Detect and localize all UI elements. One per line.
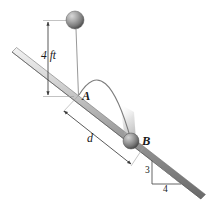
ball-b <box>123 133 139 149</box>
slope-rise-label: 3 <box>145 166 150 176</box>
figure-canvas <box>0 0 208 210</box>
point-b-label: B <box>142 135 150 148</box>
point-a-label: A <box>82 90 90 103</box>
ball-top <box>66 11 84 29</box>
distance-label: d <box>87 132 93 144</box>
slope-run-label: 4 <box>163 185 168 195</box>
height-dimension-label: 4 ft <box>41 50 56 62</box>
projectile-incline-figure: 4 ft A B d 3 4 <box>0 0 208 210</box>
inclined-plane <box>12 48 206 200</box>
drop-line <box>76 29 79 96</box>
